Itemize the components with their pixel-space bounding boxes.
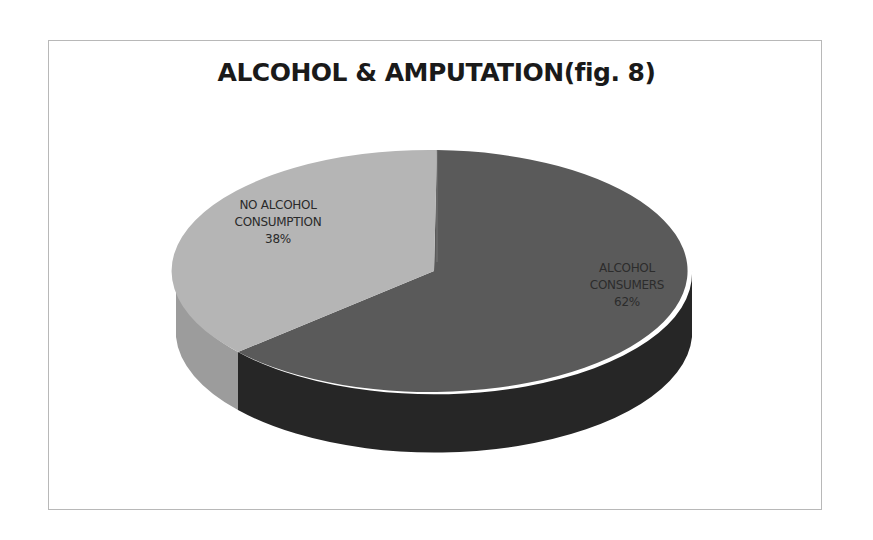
label-value: 38%	[213, 231, 343, 248]
label-line1: NO ALCOHOL	[213, 197, 343, 214]
data-label-alcohol-consumers: ALCOHOL CONSUMERS 62%	[562, 260, 692, 311]
data-label-no-alcohol: NO ALCOHOL CONSUMPTION 38%	[213, 197, 343, 248]
pie-chart-3d	[0, 0, 873, 540]
label-value: 62%	[562, 294, 692, 311]
label-line1: ALCOHOL	[562, 260, 692, 277]
label-line2: CONSUMPTION	[213, 214, 343, 231]
label-line2: CONSUMERS	[562, 277, 692, 294]
